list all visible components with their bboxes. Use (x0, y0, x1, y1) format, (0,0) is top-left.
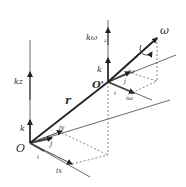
label-k-omega-z: kω (86, 33, 98, 42)
i-unit-left (30, 143, 44, 151)
label-i-left: i (37, 153, 39, 160)
label-j-left: j (48, 140, 53, 148)
omega-vector (108, 38, 157, 82)
label-r: r (65, 94, 72, 107)
vector-diagram: ω kω z k O' jω j i iω kz r k jy j O i ix (0, 0, 186, 187)
rotation-arrow-icon (140, 45, 152, 55)
label-i-omega: iω (126, 94, 133, 101)
j-omega-arrow (108, 72, 130, 82)
i-omega-arrow (108, 82, 134, 93)
label-origin-prime: O' (92, 79, 104, 90)
position-vector-r (30, 82, 108, 143)
label-k-left: k (20, 124, 25, 133)
label-i-right: i (114, 89, 116, 96)
label-j-right: j (122, 77, 126, 85)
label-ix: ix (56, 167, 62, 175)
label-j-omega: jω (126, 67, 135, 75)
label-kz: kz (14, 77, 24, 86)
label-k-right: k (97, 65, 102, 74)
label-omega: ω (160, 24, 169, 37)
label-jy: jy (57, 123, 65, 131)
labels: ω kω z k O' jω j i iω kz r k jy j O i ix (14, 24, 169, 175)
left-frame (30, 40, 170, 177)
y-axis-left (30, 100, 170, 143)
label-origin: O (16, 142, 25, 155)
projection-lines (58, 38, 157, 164)
label-k-omega-z-sub: z (103, 37, 107, 43)
